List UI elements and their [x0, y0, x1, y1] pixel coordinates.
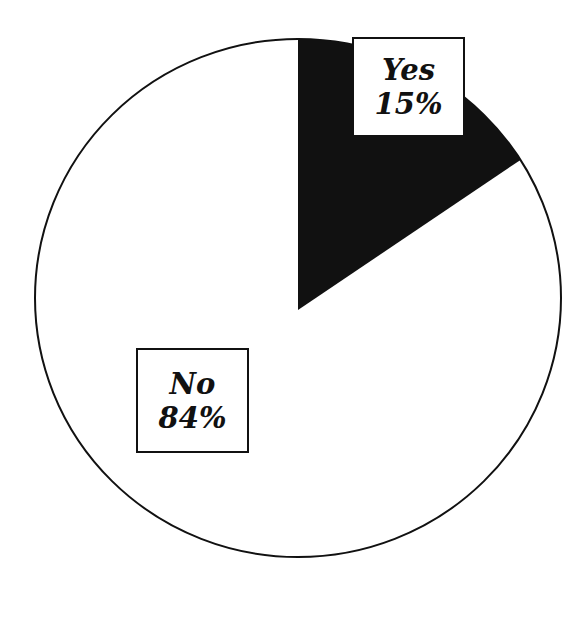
label-yes-percent: 15%	[375, 87, 443, 121]
label-no-name: No	[170, 367, 216, 401]
label-box-no: No 84%	[136, 348, 249, 453]
pie-chart	[0, 0, 581, 617]
label-no-percent: 84%	[159, 401, 227, 435]
label-box-yes: Yes 15%	[352, 37, 465, 137]
label-yes-name: Yes	[382, 53, 435, 87]
